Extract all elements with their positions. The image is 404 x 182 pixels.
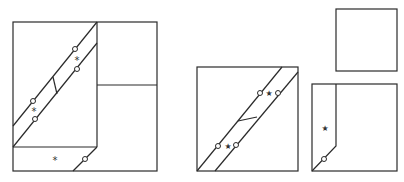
star-marker-icon: ★ [265,89,272,98]
asterisk-marker-icon: * [75,55,80,66]
circle-marker-icon [258,91,263,96]
diagram-canvas: * * * ★ ★ ★ [0,0,404,182]
middle-diagonal-upper [197,67,282,171]
top-right-square [336,9,397,71]
circle-marker-icon [75,67,80,72]
circle-marker-icon [73,47,78,52]
star-marker-icon: ★ [224,142,231,151]
circle-marker-icon [33,117,38,122]
left-band-crossline [53,77,57,94]
circle-marker-icon [83,157,88,162]
middle-diagonal-lower [215,72,298,171]
circle-marker-icon [276,91,281,96]
asterisk-marker-icon: * [53,155,58,166]
left-diagonal-upper [13,22,97,126]
circle-marker-icon [216,144,221,149]
star-marker-icon: ★ [321,124,328,133]
left-diagonal-lower [13,43,97,147]
left-outer-square [13,22,157,171]
circle-marker-icon [31,99,36,104]
figure-left: * * * [13,22,157,171]
figure-top-right [336,9,397,71]
figure-middle: ★ ★ [197,67,298,171]
circle-marker-icon [322,157,327,162]
figure-bottom-right: ★ [312,84,397,171]
asterisk-marker-icon: * [32,106,37,117]
circle-marker-icon [234,143,239,148]
